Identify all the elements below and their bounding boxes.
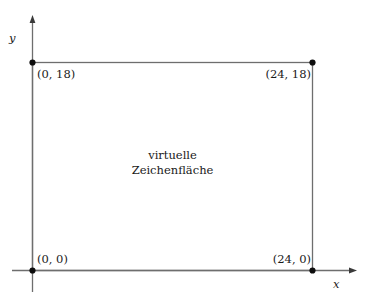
caption-line-2: Zeichenfläche <box>0 163 345 178</box>
corner-label-bottom-left: (0, 0) <box>37 253 68 266</box>
corner-dot-top-left <box>29 59 35 65</box>
corner-dot-bottom-right <box>309 267 315 273</box>
caption-line-1: virtuelle <box>0 148 345 163</box>
corner-label-bottom-right: (24, 0) <box>273 253 311 266</box>
y-axis-arrowhead <box>30 15 36 23</box>
virtual-drawing-area-figure: y x (0, 18) (24, 18) (0, 0) (24, 0) virt… <box>0 0 383 302</box>
corner-dot-top-right <box>309 59 315 65</box>
corner-label-top-left: (0, 18) <box>37 68 75 81</box>
x-axis-label: x <box>333 277 340 291</box>
virtual-area-caption: virtuelle Zeichenfläche <box>0 148 345 178</box>
corner-label-top-right: (24, 18) <box>265 68 311 81</box>
corner-dot-bottom-left <box>29 267 35 273</box>
y-axis-label: y <box>9 31 16 45</box>
x-axis-arrowhead <box>349 268 357 274</box>
